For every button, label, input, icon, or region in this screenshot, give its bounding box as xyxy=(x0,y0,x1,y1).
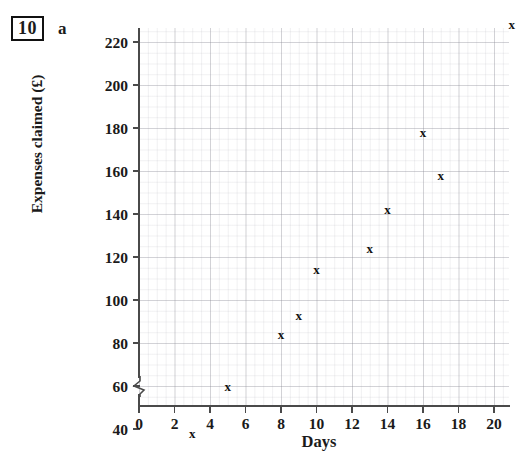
x-axis-tick-label: 18 xyxy=(439,415,479,433)
data-point-marker: x xyxy=(276,329,287,340)
x-axis-tick xyxy=(387,406,388,413)
data-point-marker: x xyxy=(222,381,233,392)
y-axis-tick xyxy=(133,213,140,214)
x-axis-tick-label-holder: 6 xyxy=(226,415,266,433)
x-axis-tick-label-holder: 0 xyxy=(119,415,159,433)
y-axis-tick-label: 60 xyxy=(0,379,128,394)
data-point-marker: x xyxy=(382,204,393,215)
x-axis-tick-label: 6 xyxy=(226,415,266,433)
data-point-marker: x xyxy=(187,428,198,439)
x-axis-line xyxy=(138,405,510,407)
y-axis-tick-label: 120 xyxy=(0,250,128,265)
x-axis-tick-label-holder: 8 xyxy=(261,415,301,433)
x-axis-tick-label-holder: 10 xyxy=(297,415,337,433)
x-axis-tick-label-holder: 12 xyxy=(332,415,372,433)
plot-area xyxy=(139,28,509,406)
y-axis-tick xyxy=(133,299,140,300)
y-axis-tick-label-holder: 80 xyxy=(0,336,128,351)
y-axis-tick-label: 220 xyxy=(0,35,128,50)
y-axis-tick-label: 200 xyxy=(0,78,128,93)
y-axis-title: Expenses claimed (£) xyxy=(28,44,46,244)
x-axis-tick-label: 20 xyxy=(474,415,514,433)
y-axis-tick-label: 80 xyxy=(0,336,128,351)
y-axis-tick xyxy=(133,170,140,171)
y-axis-tick-label-holder: 140 xyxy=(0,207,128,222)
scatter-chart: 406080100120140160180200220 024681012141… xyxy=(0,0,517,457)
x-axis-tick-label: 16 xyxy=(403,415,443,433)
x-axis-tick xyxy=(138,406,139,413)
x-axis-tick xyxy=(245,406,246,413)
data-point-marker: x xyxy=(506,19,517,30)
x-axis-tick-label: 12 xyxy=(332,415,372,433)
x-axis-tick xyxy=(422,406,423,413)
x-axis-tick-label: 0 xyxy=(119,415,159,433)
x-axis-tick-label: 8 xyxy=(261,415,301,433)
data-point-marker: x xyxy=(435,170,446,181)
x-axis-tick-label-holder: 16 xyxy=(403,415,443,433)
data-point-marker: x xyxy=(293,310,304,321)
x-axis-tick xyxy=(209,406,210,413)
y-axis-tick-label-holder: 160 xyxy=(0,164,128,179)
data-point-marker: x xyxy=(311,264,322,275)
y-axis-tick-label: 160 xyxy=(0,164,128,179)
y-axis-tick xyxy=(133,84,140,85)
x-axis-tick-label-holder: 14 xyxy=(368,415,408,433)
x-axis-tick xyxy=(351,406,352,413)
x-axis-tick-label: 10 xyxy=(297,415,337,433)
y-axis-tick-label: 100 xyxy=(0,293,128,308)
x-axis-tick xyxy=(458,406,459,413)
y-axis-tick-label: 140 xyxy=(0,207,128,222)
x-axis-tick-label-holder: 18 xyxy=(439,415,479,433)
y-axis-tick xyxy=(133,385,140,386)
x-axis-tick xyxy=(493,406,494,413)
y-axis-tick-label: 180 xyxy=(0,121,128,136)
x-axis-tick-label-holder: 20 xyxy=(474,415,514,433)
data-point-marker: x xyxy=(418,127,429,138)
data-point-marker: x xyxy=(364,243,375,254)
y-axis-tick xyxy=(133,41,140,42)
y-axis-tick-label-holder: 100 xyxy=(0,293,128,308)
y-axis-tick-label: 40 xyxy=(0,422,128,437)
x-axis-tick xyxy=(280,406,281,413)
y-axis-tick-label-holder: 220 xyxy=(0,35,128,50)
y-axis-tick-label-holder: 60 xyxy=(0,379,128,394)
y-axis-tick-label-holder: 200 xyxy=(0,78,128,93)
y-axis-line xyxy=(138,28,140,378)
y-axis-tick-label-holder: 180 xyxy=(0,121,128,136)
y-axis-tick-label-holder: 120 xyxy=(0,250,128,265)
y-axis-tick xyxy=(133,127,140,128)
y-axis-tick-label-holder: 40 xyxy=(0,422,128,437)
y-axis-tick xyxy=(133,256,140,257)
x-axis-tick xyxy=(316,406,317,413)
y-axis-tick xyxy=(133,342,140,343)
x-axis-tick-label: 14 xyxy=(368,415,408,433)
x-axis-tick xyxy=(174,406,175,413)
